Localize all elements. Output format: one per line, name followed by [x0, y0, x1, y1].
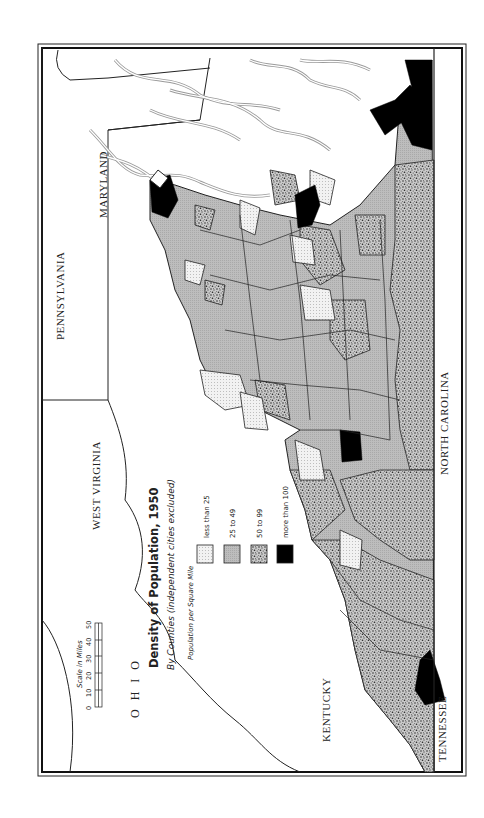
legend-swatch-more-than-100 — [277, 545, 293, 563]
legend-label-50-99: 50 to 99 — [256, 509, 264, 538]
ohio-river — [42, 620, 73, 772]
label-pennsylvania: PENNSYLVANIA — [54, 251, 66, 340]
virginia-density-map — [0, 0, 484, 818]
scale-tick-50: 50 — [85, 621, 93, 629]
legend-label-less-than-25: less than 25 — [203, 495, 211, 538]
legend-swatch-50-99 — [251, 545, 267, 563]
legend-swatch-25-49 — [224, 545, 240, 563]
label-west-virginia: WEST VIRGINIA — [90, 441, 102, 530]
label-maryland: MARYLAND — [97, 151, 109, 218]
scale-tick-30: 30 — [85, 655, 93, 663]
scale-tick-0: 0 — [85, 706, 93, 710]
scale-bar — [95, 623, 102, 707]
legend-heading: Population per Square Mile — [187, 566, 195, 660]
legend-swatch-less-than-25 — [197, 545, 213, 563]
legend-label-25-49: 25 to 49 — [229, 509, 237, 538]
scale-tick-20: 20 — [85, 672, 93, 680]
scale-title: Scale in Miles — [76, 640, 84, 688]
label-kentucky: KENTUCKY — [320, 678, 332, 743]
scale-tick-40: 40 — [85, 638, 93, 646]
label-tennessee: TENNESSEE — [436, 696, 448, 762]
label-north-carolina: NORTH CAROLINA — [438, 371, 450, 475]
map-subtitle: By Counties (independent cities excluded… — [166, 479, 176, 670]
legend-label-more-than-100: more than 100 — [282, 486, 290, 538]
scale-tick-10: 10 — [85, 689, 93, 697]
map-title: Density of Population, 1950 — [147, 487, 161, 668]
label-ohio: OHIO — [128, 652, 143, 718]
